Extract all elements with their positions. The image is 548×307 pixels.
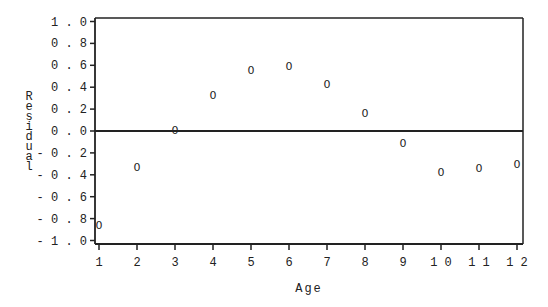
y-tick-label: - 0 . 6 — [37, 191, 87, 205]
y-tick-label: - 0 . 4 — [37, 169, 87, 183]
data-point-marker: 0 — [514, 158, 521, 171]
x-tick-label: 9 — [399, 256, 406, 270]
y-tick-label: 0 . 2 — [51, 103, 87, 117]
y-tick-label: - 1 . 0 — [37, 235, 87, 249]
x-tick-label: 6 — [285, 256, 292, 270]
x-tick-label: 3 — [171, 256, 178, 270]
data-point-marker: 0 — [286, 60, 293, 73]
y-axis-title-char: l — [25, 160, 32, 174]
x-tick-label: 5 — [247, 256, 254, 270]
residual-plot: 1 . 00 . 80 . 60 . 40 . 20 . 0- 0 . 2- 0… — [0, 0, 548, 307]
x-tick-label: 1 — [95, 256, 102, 270]
y-tick-label: 0 . 4 — [51, 81, 87, 95]
y-tick-label: 0 . 8 — [51, 37, 87, 51]
data-point-marker: 0 — [362, 107, 369, 120]
data-point-marker: 0 — [172, 124, 179, 137]
x-tick-label: 4 — [209, 256, 216, 270]
x-tick-label: 1 1 — [468, 256, 490, 270]
x-tick-label: 2 — [133, 256, 140, 270]
x-tick-label: 1 2 — [506, 256, 528, 270]
y-axis-title: Residual — [25, 90, 32, 174]
data-point-marker: 0 — [210, 89, 217, 102]
x-axis: 1234567891 01 11 2 — [95, 244, 528, 270]
data-point-marker: 0 — [438, 166, 445, 179]
y-axis: 1 . 00 . 80 . 60 . 40 . 20 . 0- 0 . 2- 0… — [37, 16, 95, 249]
x-tick-label: 7 — [323, 256, 330, 270]
x-tick-label: 1 0 — [430, 256, 452, 270]
y-tick-label: - 0 . 8 — [37, 213, 87, 227]
y-tick-label: 0 . 6 — [51, 59, 87, 73]
data-point-marker: 0 — [96, 219, 103, 232]
data-point-marker: 0 — [400, 137, 407, 150]
data-point-marker: 0 — [476, 162, 483, 175]
y-tick-label: 0 . 0 — [51, 125, 87, 139]
y-tick-label: - 0 . 2 — [37, 147, 87, 161]
data-point-marker: 0 — [248, 64, 255, 77]
data-point-marker: 0 — [324, 78, 331, 91]
x-tick-label: 8 — [361, 256, 368, 270]
data-point-marker: 0 — [134, 161, 141, 174]
y-tick-label: 1 . 0 — [51, 16, 87, 30]
data-points: 000000000000 — [96, 60, 521, 232]
x-axis-title: Age — [295, 282, 323, 296]
